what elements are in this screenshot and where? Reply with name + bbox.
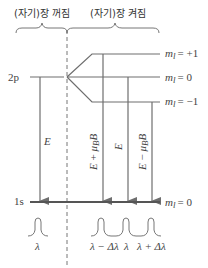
label-E-minus: E − μBB bbox=[136, 134, 150, 171]
split-minus bbox=[67, 77, 160, 102]
label-E-no-field: E bbox=[43, 135, 51, 147]
sublevel-zero-label: ml= 0 bbox=[165, 71, 192, 85]
field-on-brace bbox=[67, 23, 159, 33]
label-E-zero: E bbox=[112, 143, 124, 151]
lambda-plus-dl: λ + Δλ bbox=[136, 240, 166, 252]
ground-ml-label: ml= 0 bbox=[165, 196, 192, 210]
sublevel-minus-label: ml= −1 bbox=[165, 95, 198, 109]
peak-no-field bbox=[28, 218, 48, 236]
level-2p-label: 2p bbox=[8, 71, 20, 83]
lambda-center: λ bbox=[123, 240, 129, 252]
zeeman-diagram: (자기)장 꺼짐 (자기)장 켜짐 2p ml= +1 ml= 0 ml= −1… bbox=[0, 0, 208, 268]
split-plus bbox=[67, 54, 160, 77]
sublevel-plus-label: ml= +1 bbox=[165, 47, 198, 61]
lambda-no-field: λ bbox=[34, 240, 40, 252]
level-1s-label: 1s bbox=[14, 195, 24, 207]
lambda-minus-dl: λ − Δλ bbox=[89, 240, 119, 252]
field-off-brace bbox=[16, 23, 67, 33]
peaks-field-on bbox=[91, 218, 161, 236]
field-on-label: (자기)장 켜짐 bbox=[90, 8, 146, 19]
field-off-label: (자기)장 꺼짐 bbox=[14, 8, 70, 19]
label-E-plus: E + μBB bbox=[87, 134, 101, 171]
